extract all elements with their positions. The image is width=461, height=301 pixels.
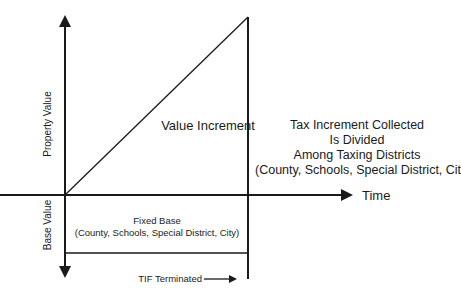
down-arrow-icon xyxy=(59,266,71,278)
tif-terminated-label: TIF Terminated xyxy=(130,273,202,284)
tax-text-line2: Is Divided xyxy=(255,133,459,148)
tax-text-line1: Tax Increment Collected xyxy=(255,118,459,133)
tax-text-line3: Among Taxing Districts xyxy=(255,148,459,163)
up-arrow-icon xyxy=(59,15,71,27)
tif-arrow-icon xyxy=(229,275,237,283)
y-axis-down-label: Base Value xyxy=(42,199,54,251)
value-increment-line xyxy=(65,17,248,195)
tax-text-line4: (County, Schools, Special District, City… xyxy=(255,163,459,178)
y-axis-up-label: Property Value xyxy=(42,89,54,159)
fixed-base-line2: (County, Schools, Special District, City… xyxy=(70,227,244,239)
fixed-base-line1: Fixed Base xyxy=(70,215,244,227)
right-arrow-icon xyxy=(341,189,353,201)
value-increment-label: Value Increment xyxy=(148,118,268,133)
x-axis-label: Time xyxy=(362,188,402,203)
fixed-base-text: Fixed Base (County, Schools, Special Dis… xyxy=(70,215,244,239)
tax-increment-text: Tax Increment Collected Is Divided Among… xyxy=(255,118,459,178)
